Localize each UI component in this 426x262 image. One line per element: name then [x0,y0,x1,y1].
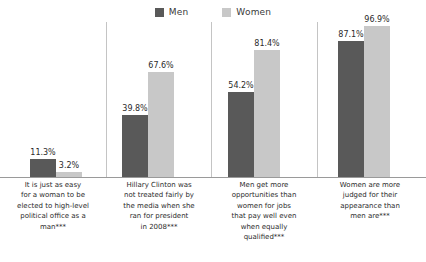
bar-women[interactable] [56,172,82,177]
bar-value-label: 3.2% [59,161,79,170]
bar-men[interactable] [30,159,56,177]
bar-men[interactable] [228,92,254,177]
axis-baseline [0,177,426,178]
category-label: Hillary Clinton wasnot treated fairly by… [107,180,211,232]
group-separator [106,22,107,177]
legend-label-men: Men [169,7,189,17]
legend-swatch-icon [155,8,164,17]
bar-chart: Men Women 11.3%3.2%39.8%67.6%54.2%81.4%8… [0,0,426,262]
legend-item-men: Men [155,7,189,17]
bar-pair: 54.2%81.4% [228,21,280,177]
group-separator [211,22,212,177]
plot-area: 11.3%3.2%39.8%67.6%54.2%81.4%87.1%96.9% [0,20,426,178]
bar-column-women[interactable]: 81.4% [254,21,280,177]
bar-pair: 11.3%3.2% [30,21,82,177]
bar-value-label: 54.2% [228,81,253,90]
bar-women[interactable] [364,26,390,177]
bar-women[interactable] [148,72,174,177]
bar-pair: 39.8%67.6% [122,21,174,177]
legend-swatch-icon [222,8,231,17]
legend-item-women: Women [222,7,271,17]
bar-men[interactable] [122,115,148,177]
bar-pair: 87.1%96.9% [338,21,390,177]
bar-column-men[interactable]: 87.1% [338,21,364,177]
category-label: Men get moreopportunities thanwomen for … [212,180,316,242]
bar-men[interactable] [338,41,364,177]
legend-label-women: Women [236,7,271,17]
bar-value-label: 96.9% [364,15,389,24]
bar-column-women[interactable]: 67.6% [148,21,174,177]
category-label: It is just as easyfor a woman to beelect… [1,180,105,232]
category-label: Women are morejudged for theirappearance… [318,180,422,222]
bar-value-label: 87.1% [338,30,363,39]
bar-column-women[interactable]: 3.2% [56,21,82,177]
category-axis-labels: It is just as easyfor a woman to beelect… [0,180,426,262]
bar-column-men[interactable]: 11.3% [30,21,56,177]
bar-column-men[interactable]: 39.8% [122,21,148,177]
bar-column-men[interactable]: 54.2% [228,21,254,177]
bar-value-label: 67.6% [148,61,173,70]
bar-value-label: 81.4% [254,39,279,48]
chart-legend: Men Women [0,4,426,20]
bar-value-label: 11.3% [30,148,55,157]
group-separator [317,22,318,177]
bar-women[interactable] [254,50,280,177]
bar-value-label: 39.8% [122,104,147,113]
bar-column-women[interactable]: 96.9% [364,21,390,177]
